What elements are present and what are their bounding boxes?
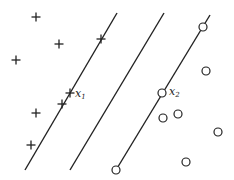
circle-marker-icon: [199, 23, 207, 31]
circle-marker-icon: [174, 110, 182, 118]
plus-marker-icon: [32, 13, 41, 22]
x1-label: x1: [75, 87, 86, 101]
separating-lines: [25, 13, 210, 170]
plus-marker-icon: [12, 56, 21, 65]
plus-class-points: [12, 13, 106, 150]
circle-marker-icon: [159, 114, 167, 122]
margin-plus-line: [25, 13, 117, 170]
circle-marker-icon: [158, 89, 166, 97]
circle-marker-icon: [214, 128, 222, 136]
plus-marker-icon: [32, 109, 41, 118]
circle-marker-icon: [202, 67, 210, 75]
circle-marker-icon: [182, 158, 190, 166]
x2-label: x2: [169, 85, 180, 99]
plus-marker-icon: [27, 141, 36, 150]
plus-marker-icon: [66, 89, 75, 98]
plus-marker-icon: [55, 40, 64, 49]
hyperplane-line: [70, 13, 164, 170]
svm-diagram: x1x2: [0, 0, 234, 180]
circle-class-points: [112, 23, 222, 174]
circle-marker-icon: [112, 166, 120, 174]
